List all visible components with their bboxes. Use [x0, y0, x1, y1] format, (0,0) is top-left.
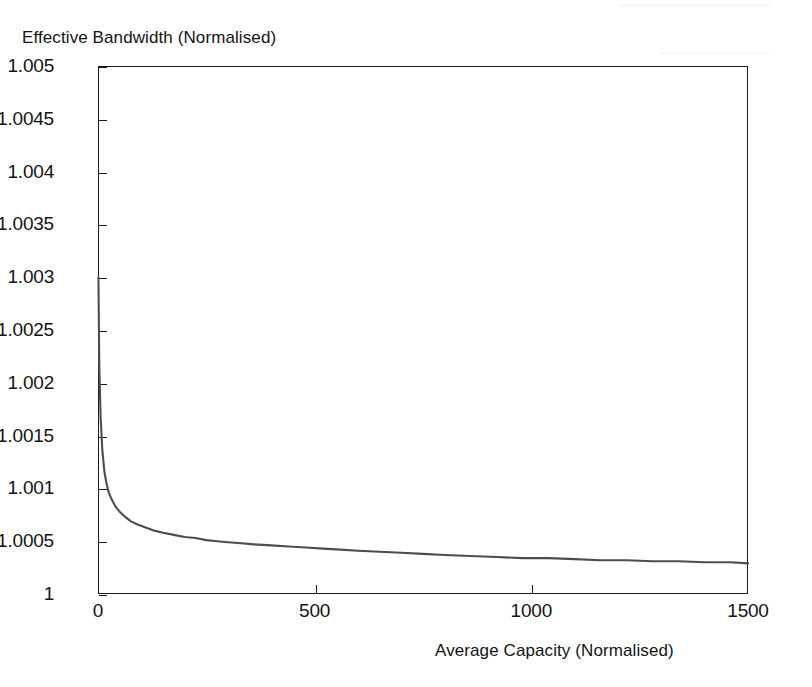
- x-axis-tick-label: 500: [299, 600, 330, 622]
- y-axis-title: Effective Bandwidth (Normalised): [22, 28, 276, 48]
- y-axis-tick-label: 1.001: [7, 477, 54, 499]
- scan-artifact: [660, 52, 770, 54]
- series-line-effective-bandwidth: [98, 277, 748, 563]
- y-axis-tick-label: 1.0045: [0, 108, 54, 130]
- y-axis-tick-label: 1: [44, 583, 54, 605]
- y-axis-tick-label: 1.004: [7, 161, 54, 183]
- y-axis-tick: [99, 595, 107, 596]
- x-axis-title: Average Capacity (Normalised): [435, 641, 674, 661]
- scan-artifact: [620, 4, 770, 7]
- x-axis-tick-label: 0: [93, 600, 103, 622]
- y-axis-tick-label: 1.0005: [0, 530, 54, 552]
- chart-figure: Effective Bandwidth (Normalised) Average…: [0, 0, 812, 687]
- y-axis-tick-label: 1.002: [7, 372, 54, 394]
- y-axis-tick-label: 1.0025: [0, 319, 54, 341]
- y-axis-tick-label: 1.0035: [0, 213, 54, 235]
- data-curve: [98, 66, 748, 594]
- x-axis-tick-label: 1000: [511, 600, 552, 622]
- y-axis-tick-label: 1.005: [7, 55, 54, 77]
- y-axis-tick-label: 1.0015: [0, 425, 54, 447]
- y-axis-tick-label: 1.003: [7, 266, 54, 288]
- x-axis-tick-label: 1500: [727, 600, 768, 622]
